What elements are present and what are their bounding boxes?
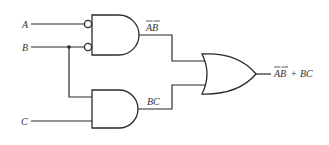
or-gate xyxy=(202,54,256,94)
inverter-bubble-b xyxy=(84,43,91,50)
wire-and1-out xyxy=(139,35,208,61)
output-expression: AB + BC xyxy=(273,67,313,79)
logic-circuit-diagram: A B C AB BC AB + BC xyxy=(0,0,329,145)
inverter-bubble-a xyxy=(84,20,91,27)
input-label-c: C xyxy=(21,116,28,127)
svg-text:+: + xyxy=(291,68,297,79)
svg-text:BC: BC xyxy=(300,68,313,79)
svg-text:AB: AB xyxy=(145,22,158,33)
input-label-b: B xyxy=(22,42,28,53)
and-gate-2 xyxy=(92,90,138,128)
and2-output-label: BC xyxy=(147,96,160,107)
and-gate-1 xyxy=(92,15,139,55)
wire-b-branch xyxy=(69,47,92,97)
and1-output-label: AB xyxy=(145,21,160,33)
svg-text:AB: AB xyxy=(273,68,286,79)
input-label-a: A xyxy=(21,19,29,30)
